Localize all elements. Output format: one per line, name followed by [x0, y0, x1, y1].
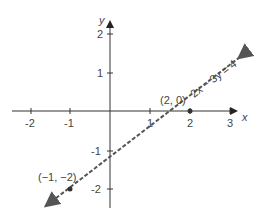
- point-label: (−1, −2): [38, 171, 77, 183]
- x-tick: 2: [187, 117, 193, 129]
- x-tick: -2: [25, 117, 35, 129]
- x-axis-label: x: [241, 111, 248, 123]
- x-axis: -2 -1 1 2 3 x: [12, 108, 248, 129]
- x-tick: -1: [64, 117, 74, 129]
- y-tick: -1: [91, 145, 101, 157]
- y-tick: 1: [97, 67, 103, 79]
- y-axis-label: y: [98, 14, 106, 26]
- graph: -2 -1 1 2 3 x 2 1 -1 -2 y (2, 0) (−1, −2…: [0, 0, 266, 219]
- point-label: (2, 0): [160, 94, 186, 106]
- y-tick: 2: [97, 28, 103, 40]
- equation-label: 2x − 3y = 4: [188, 57, 239, 99]
- y-tick: -2: [91, 183, 101, 195]
- x-tick: 3: [227, 117, 233, 129]
- point-2-0: [188, 109, 193, 114]
- point-neg1-neg2: [68, 187, 73, 192]
